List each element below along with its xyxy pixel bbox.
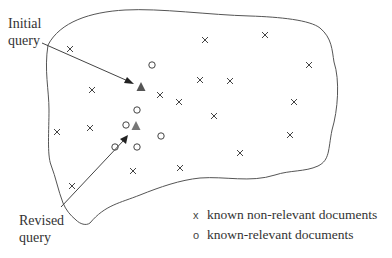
x-mark-icon bbox=[157, 92, 163, 98]
x-mark-icon bbox=[54, 129, 60, 135]
revised-query-label-line1: Revised bbox=[19, 212, 64, 229]
initial-query-label-line2: query bbox=[8, 32, 41, 49]
legend-item-relevant: oknown-relevant documents bbox=[193, 227, 354, 243]
legend-label-non-relevant: known non-relevant documents bbox=[207, 207, 377, 222]
circle-mark-icon bbox=[134, 107, 140, 113]
revised-query-label: Revised query bbox=[19, 212, 64, 246]
x-mark-icon bbox=[89, 87, 95, 93]
x-mark-icon bbox=[237, 150, 243, 156]
initial-query-arrowhead bbox=[124, 77, 134, 84]
x-mark-icon bbox=[87, 125, 93, 131]
initial-query-arrow bbox=[42, 43, 128, 81]
x-mark-icon bbox=[197, 77, 203, 83]
x-mark-icon bbox=[306, 62, 312, 68]
initial-query-triangle-icon bbox=[137, 82, 146, 91]
circle-mark-icon bbox=[158, 133, 164, 139]
x-mark-icon bbox=[202, 37, 208, 43]
revised-query-label-line2: query bbox=[19, 229, 64, 246]
x-mark-icon bbox=[291, 99, 297, 105]
x-mark-icon bbox=[130, 168, 136, 174]
non-relevant-document-marks bbox=[54, 32, 312, 189]
legend-label-relevant: known-relevant documents bbox=[207, 227, 354, 242]
circle-mark-icon bbox=[134, 144, 140, 150]
initial-query-label-line1: Initial bbox=[8, 15, 41, 32]
x-mark-icon bbox=[176, 99, 182, 105]
x-mark-icon bbox=[69, 183, 75, 189]
x-mark-icon bbox=[262, 32, 268, 38]
relevant-document-marks bbox=[112, 62, 164, 150]
circle-mark-icon: o bbox=[193, 229, 207, 241]
initial-query-label: Initial query bbox=[8, 15, 41, 49]
circle-mark-icon bbox=[123, 122, 129, 128]
x-mark-icon bbox=[177, 165, 183, 171]
x-mark-icon bbox=[67, 46, 73, 52]
revised-query-triangle-icon bbox=[132, 121, 141, 130]
x-mark-icon bbox=[287, 132, 293, 138]
circle-mark-icon bbox=[149, 62, 155, 68]
document-space-boundary bbox=[46, 10, 337, 225]
x-mark-icon bbox=[211, 113, 217, 119]
x-mark-icon bbox=[227, 78, 233, 84]
x-mark-icon: x bbox=[193, 209, 207, 221]
legend-item-non-relevant: xknown non-relevant documents bbox=[193, 207, 377, 223]
